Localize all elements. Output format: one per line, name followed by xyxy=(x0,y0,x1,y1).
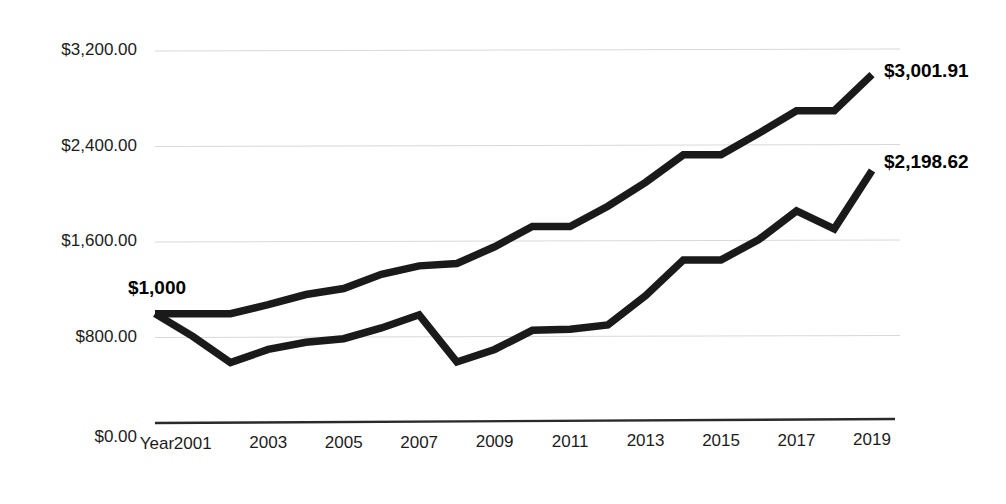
y-axis-tick-label: $800.00 xyxy=(76,327,137,346)
line-chart-figure: $3,200.00$2,400.00$1,600.00$800.00$0.00 … xyxy=(0,0,1006,504)
x-axis-tick-label: 2003 xyxy=(249,433,287,452)
y-axis-tick-label: $3,200.00 xyxy=(61,40,137,59)
chart-canvas: $3,200.00$2,400.00$1,600.00$800.00$0.00 … xyxy=(0,0,1006,504)
x-axis-tick-label: 2007 xyxy=(400,433,438,452)
y-axis-tick-label: $2,400.00 xyxy=(61,136,137,155)
x-axis-tick-label: 2015 xyxy=(702,431,740,450)
x-axis-tick-label: 2019 xyxy=(853,430,891,449)
start-value-label: $1,000 xyxy=(128,277,186,298)
x-axis-tick-label: 2005 xyxy=(325,433,363,452)
lower-end-value-label: $2,198.62 xyxy=(884,151,969,172)
y-axis-tick-label: $1,600.00 xyxy=(61,231,137,250)
x-axis-tick-label: 2013 xyxy=(627,431,665,450)
chart-background xyxy=(0,0,1006,504)
x-axis-tick-label: 2011 xyxy=(552,432,589,451)
y-axis-tick-label: $0.00 xyxy=(94,427,137,446)
x-axis-tick-label: 2009 xyxy=(476,432,514,451)
upper-end-value-label: $3,001.91 xyxy=(884,60,969,81)
x-axis-tick-label: 2001 xyxy=(174,434,212,453)
x-axis-tick-label: 2017 xyxy=(778,431,816,450)
x-axis-title-label: Year xyxy=(140,434,175,453)
